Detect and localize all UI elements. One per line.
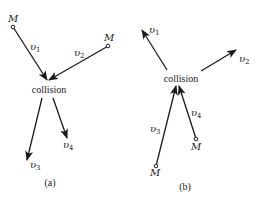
caption-a: (a) (44, 177, 55, 189)
vector-label-b-v1: υ1 (149, 24, 160, 37)
vector-arrow-b-v3 (157, 86, 177, 164)
vector-label-b-v4: υ4 (191, 107, 202, 120)
vector-label-a-v1: υ1 (30, 41, 41, 54)
collision-diagram: M υ1 M υ2 collision υ3 υ4 (a) υ1 υ2 coll… (0, 0, 256, 203)
panel-a: M υ1 M υ2 collision υ3 υ4 (a) (7, 13, 115, 189)
vector-arrow-a-v4 (53, 98, 67, 138)
collision-label-a: collision (32, 84, 66, 95)
panel-b: υ1 υ2 collision M υ3 M υ4 (b) (142, 24, 250, 193)
mass-label-a-2: M (103, 32, 115, 43)
vector-label-a-v4: υ4 (63, 139, 74, 152)
vector-arrow-a-v1 (14, 29, 47, 81)
vector-label-b-v3: υ3 (150, 123, 161, 136)
mass-label-a-1: M (7, 13, 19, 24)
mass-point-a-1 (11, 25, 15, 29)
mass-point-a-2 (106, 44, 110, 48)
vector-arrow-b-v2 (201, 50, 236, 71)
mass-label-b-1: M (149, 167, 161, 178)
mass-label-b-2: M (190, 141, 202, 152)
caption-b: (b) (179, 181, 191, 193)
vector-label-a-v2: υ2 (74, 47, 85, 60)
collision-label-b: collision (164, 73, 198, 84)
vector-arrow-a-v3 (27, 98, 42, 160)
vector-label-b-v2: υ2 (239, 53, 250, 66)
vector-label-a-v3: υ3 (30, 159, 41, 172)
